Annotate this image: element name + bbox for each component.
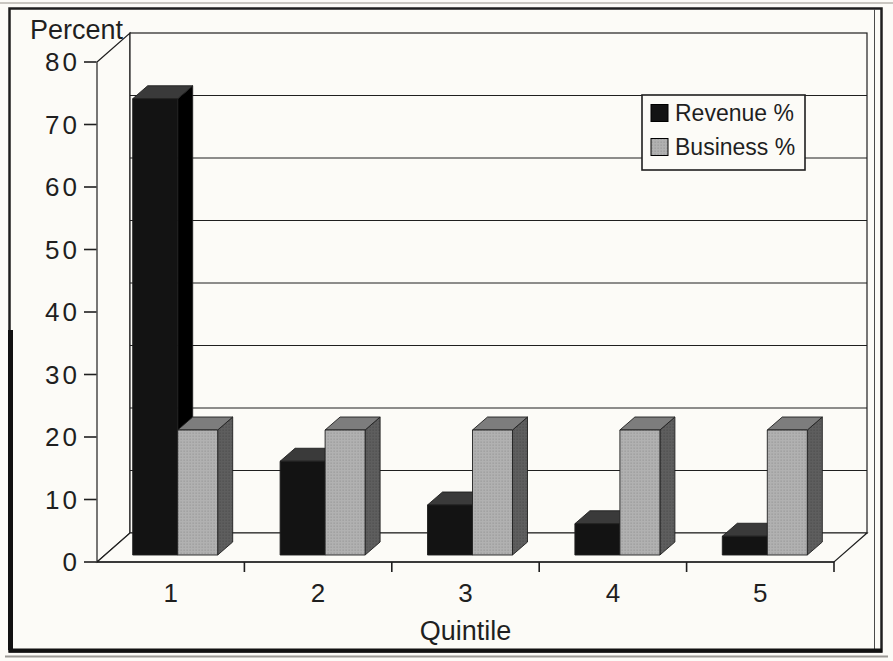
business-bar-q1-side: [218, 417, 233, 555]
figure-frame: 0102030405060708012345QuintilePercentRev…: [0, 0, 893, 661]
x-axis-label-4: 4: [606, 578, 620, 608]
y-axis-tick-label-80: 80: [45, 47, 80, 77]
business-bar-q4-side: [660, 417, 675, 555]
business-bar-q4-front: [620, 430, 660, 555]
y-axis-tick-label-70: 70: [45, 110, 80, 140]
business-bar-q5-front: [767, 430, 807, 555]
revenue-bar-q3-front: [428, 505, 473, 555]
y-axis-title: Percent: [30, 15, 124, 45]
business-bar-q2-front: [325, 430, 365, 555]
y-axis-tick-label-30: 30: [45, 360, 80, 390]
y-axis-tick-label-50: 50: [45, 235, 80, 265]
business-bar-q2-side: [365, 417, 380, 555]
revenue-bar-q2-front: [280, 461, 325, 555]
x-axis-label-1: 1: [163, 578, 177, 608]
business-bar-q3-front: [473, 430, 513, 555]
y-axis-tick-label-60: 60: [45, 172, 80, 202]
left-wall: [97, 33, 130, 562]
legend-label-business: Business %: [675, 134, 795, 160]
revenue-bar-q1-front: [133, 99, 178, 555]
scanned-page: 0102030405060708012345QuintilePercentRev…: [0, 0, 893, 661]
y-axis-tick-label-20: 20: [45, 422, 80, 452]
business-bar-q5-side: [807, 417, 822, 555]
x-axis-label-5: 5: [753, 578, 767, 608]
legend-label-revenue: Revenue %: [675, 100, 794, 126]
business-bar-q3-side: [513, 417, 528, 555]
y-axis-tick-label-0: 0: [63, 547, 80, 577]
x-axis-label-2: 2: [311, 578, 325, 608]
business-bar-q1-front: [178, 430, 218, 555]
x-axis-label-3: 3: [458, 578, 472, 608]
revenue-bar-q5-front: [722, 536, 767, 555]
legend-swatch-revenue: [651, 105, 668, 122]
y-axis-tick-label-10: 10: [45, 485, 80, 515]
y-axis-tick-label-40: 40: [45, 297, 80, 327]
legend-swatch-business: [651, 139, 668, 156]
revenue-bar-q4-front: [575, 524, 620, 555]
quintile-bar-chart-3d: 0102030405060708012345QuintilePercentRev…: [0, 0, 893, 661]
x-axis-title: Quintile: [420, 616, 512, 646]
